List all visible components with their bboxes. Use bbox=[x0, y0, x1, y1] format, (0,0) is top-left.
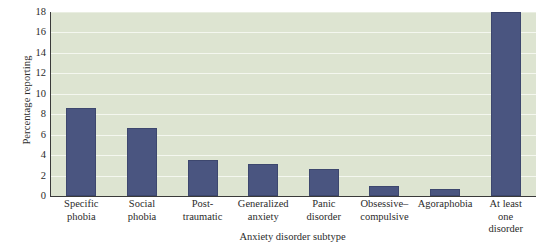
x-tick-label-line: Generalized bbox=[234, 198, 293, 211]
x-tick-label-line: phobia bbox=[52, 211, 111, 224]
bar-chart-figure: Percentage reporting 181614121086420 Spe… bbox=[0, 0, 541, 250]
bar-slot bbox=[51, 12, 112, 196]
y-tick-label: 16 bbox=[22, 27, 46, 37]
y-tick-label: 0 bbox=[22, 191, 46, 201]
bar-slot bbox=[475, 12, 536, 196]
bar-series bbox=[51, 12, 536, 196]
x-tick-label-line: phobia bbox=[113, 211, 172, 224]
bar[interactable] bbox=[248, 164, 278, 196]
bar[interactable] bbox=[369, 186, 399, 196]
x-tick-label-line: traumatic bbox=[173, 211, 232, 224]
x-tick-label-line: At least bbox=[476, 198, 535, 211]
x-tick-label-line: Agoraphobia bbox=[416, 198, 475, 211]
y-tick-label: 14 bbox=[22, 48, 46, 58]
x-tick-label-line: compulsive bbox=[355, 211, 414, 224]
plot-area bbox=[50, 12, 536, 197]
x-tick-label-line: disorder bbox=[295, 211, 354, 224]
x-tick-label-line: one bbox=[476, 211, 535, 224]
y-axis-tick-labels: 181614121086420 bbox=[22, 6, 46, 202]
bar-slot bbox=[294, 12, 355, 196]
bar[interactable] bbox=[127, 128, 157, 196]
y-tick-label: 12 bbox=[22, 68, 46, 78]
y-tick-label: 18 bbox=[22, 7, 46, 17]
bar-slot bbox=[233, 12, 294, 196]
x-tick-label-line: Social bbox=[113, 198, 172, 211]
y-tick-label: 10 bbox=[22, 89, 46, 99]
x-tick-label-line: Post- bbox=[173, 198, 232, 211]
bar-slot bbox=[112, 12, 173, 196]
y-tick-label: 6 bbox=[22, 130, 46, 140]
y-tick-label: 4 bbox=[22, 150, 46, 160]
bar[interactable] bbox=[309, 169, 339, 196]
y-tick-label: 2 bbox=[22, 171, 46, 181]
bar[interactable] bbox=[66, 108, 96, 196]
x-axis-title: Anxiety disorder subtype bbox=[50, 231, 535, 242]
bar-slot bbox=[354, 12, 415, 196]
y-tick-label: 8 bbox=[22, 109, 46, 119]
bar[interactable] bbox=[430, 189, 460, 196]
x-tick-label-line: anxiety bbox=[234, 211, 293, 224]
bar[interactable] bbox=[491, 12, 521, 196]
x-tick-label-line: Specific bbox=[52, 198, 111, 211]
x-tick-label-line: Panic bbox=[295, 198, 354, 211]
bar-slot bbox=[415, 12, 476, 196]
x-tick-label-line: Obsessive– bbox=[355, 198, 414, 211]
bar-slot bbox=[172, 12, 233, 196]
bar[interactable] bbox=[188, 160, 218, 196]
